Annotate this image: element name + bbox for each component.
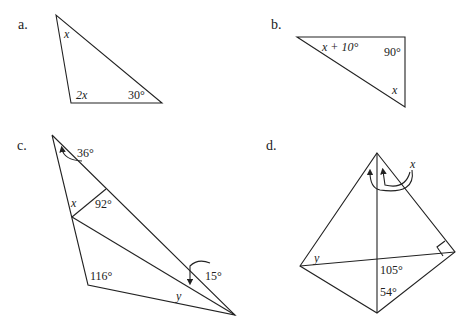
angle-c-bottom: y [175, 289, 182, 303]
angle-d-bottom: 54° [380, 285, 397, 299]
angle-a-bottom-left: 2x [76, 88, 88, 102]
figure-b: b. x + 10° 90° x [271, 17, 405, 107]
geometry-diagram: a. x 2x 30° b. x + 10° 90° x c. 36° 92° … [0, 0, 462, 327]
figure-a: a. x 2x 30° [18, 15, 162, 103]
figure-a-label: a. [18, 17, 28, 32]
quadrilateral-c [52, 135, 235, 315]
triangle-a [56, 15, 162, 103]
angle-c-bottom-left: 116° [90, 269, 113, 283]
angle-c-inner: 92° [95, 197, 112, 211]
angle-c-left: x [70, 196, 77, 210]
segment-c-diagonal [72, 217, 235, 315]
angle-b-bottom-right: x [391, 83, 398, 97]
angle-d-center: 105° [380, 263, 403, 277]
angle-d-left: y [313, 251, 320, 265]
figure-d: d. x y 105° 54° [266, 138, 455, 313]
angle-d-top: x [409, 157, 416, 171]
angle-b-left: x + 10° [321, 40, 358, 54]
figure-d-label: d. [266, 138, 277, 153]
angle-c-top: 36° [77, 146, 94, 160]
angle-a-bottom-right: 30° [128, 88, 145, 102]
angle-a-top: x [63, 27, 70, 41]
figure-b-label: b. [271, 17, 282, 32]
angle-c-right: 15° [205, 269, 222, 283]
figure-c: c. 36° 92° x 116° 15° y [17, 135, 235, 315]
figure-c-label: c. [17, 138, 27, 153]
angle-b-top-right: 90° [384, 45, 401, 59]
